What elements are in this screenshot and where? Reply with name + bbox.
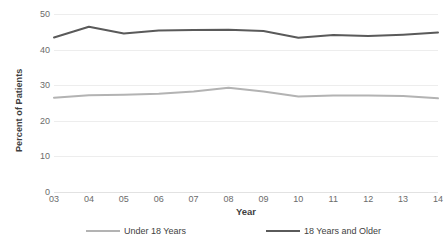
line-chart: Percent of Patients 50403020100 03040506…: [0, 0, 445, 241]
x-axis-tick-label: 03: [41, 194, 67, 205]
x-axis-tick-label: 05: [111, 194, 137, 205]
x-axis-tick-label: 12: [355, 194, 381, 205]
plot-area: [54, 14, 438, 192]
y-axis-tick-label: 20: [24, 116, 50, 126]
x-axis-tick-label: 08: [216, 194, 242, 205]
x-axis-tick-label: 04: [76, 194, 102, 205]
x-axis-title: Year: [54, 206, 438, 217]
x-axis-tick-label: 07: [181, 194, 207, 205]
legend-item[interactable]: 18 Years and Older: [266, 224, 381, 238]
y-axis-tick-label: 50: [24, 9, 50, 19]
y-axis-tick-label: 40: [24, 45, 50, 55]
legend-label: 18 Years and Older: [304, 226, 381, 237]
series-line: [54, 88, 438, 99]
x-axis-tick-label: 06: [146, 194, 172, 205]
legend-item[interactable]: Under 18 Years: [86, 224, 186, 238]
series-lines: [54, 14, 438, 192]
y-axis-tick-label: 30: [24, 80, 50, 90]
x-axis-tick-label: 14: [425, 194, 445, 205]
series-line: [54, 27, 438, 38]
x-axis-tick-label: 13: [390, 194, 416, 205]
chart-legend: Under 18 Years18 Years and Older: [54, 224, 438, 240]
y-axis-tick-label: 10: [24, 151, 50, 161]
legend-line-swatch: [266, 230, 300, 232]
legend-label: Under 18 Years: [124, 226, 186, 237]
x-axis-tick-label: 09: [250, 194, 276, 205]
legend-line-swatch: [86, 230, 120, 232]
x-axis-tick-label: 10: [285, 194, 311, 205]
gridline: [54, 192, 438, 193]
x-axis-tick-label: 11: [320, 194, 346, 205]
